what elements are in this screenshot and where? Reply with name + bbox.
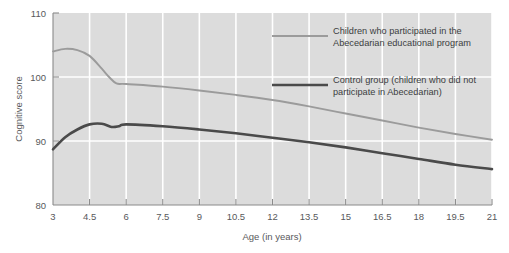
x-tick-label: 15 — [340, 211, 351, 222]
legend-label-1-line1: Children who participated in the — [333, 26, 462, 36]
x-axis-title: Age (in years) — [242, 231, 301, 242]
y-tick-label: 80 — [35, 200, 46, 211]
legend-label-2-line1: Control group (children who did not — [333, 75, 476, 85]
x-tick-label: 10.5 — [227, 211, 246, 222]
x-tick-label: 21 — [487, 211, 498, 222]
chart-figure: 8090100110 34.567.5910.51213.51516.51819… — [0, 0, 509, 253]
x-tick-label: 7.5 — [156, 211, 169, 222]
x-tick-label: 9 — [197, 211, 202, 222]
y-axis-title: Cognitive score — [13, 76, 24, 141]
x-tick-label: 4.5 — [83, 211, 96, 222]
legend-label-2-line2: participate in Abecedarian) — [333, 87, 442, 97]
x-tick-label: 6 — [124, 211, 129, 222]
y-tick-label: 90 — [35, 136, 46, 147]
x-tick-label: 18 — [414, 211, 425, 222]
cognitive-score-line-chart: 8090100110 34.567.5910.51213.51516.51819… — [0, 0, 509, 253]
y-tick-label: 110 — [31, 8, 46, 19]
legend-label-1-line2: Abecedarian educational program — [333, 38, 471, 48]
x-tick-label: 19.5 — [446, 211, 465, 222]
x-tick-label: 16.5 — [373, 211, 392, 222]
x-tick-label: 12 — [267, 211, 278, 222]
x-tick-label: 3 — [50, 211, 55, 222]
y-tick-label: 100 — [30, 72, 46, 83]
x-tick-label: 13.5 — [300, 211, 319, 222]
